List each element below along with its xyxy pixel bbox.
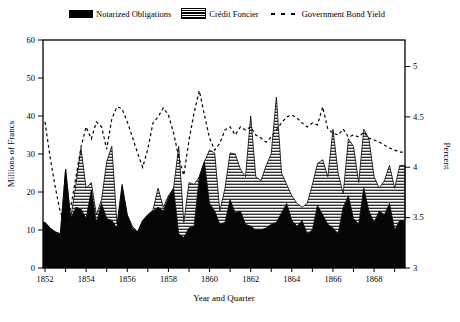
x-axis-title: Year and Quarter (43, 293, 405, 303)
svg-text:1866: 1866 (324, 274, 341, 284)
svg-text:1854: 1854 (78, 274, 96, 284)
svg-text:10: 10 (27, 225, 36, 235)
svg-text:30: 30 (27, 149, 36, 159)
svg-text:40: 40 (27, 111, 36, 121)
figure: Notarized Obligations Crédit Foncier Gov… (0, 0, 460, 322)
svg-text:1862: 1862 (242, 274, 259, 284)
svg-text:4: 4 (413, 162, 418, 172)
svg-text:3: 3 (413, 263, 417, 273)
svg-text:4.5: 4.5 (413, 112, 424, 122)
left-axis-title: Millions of Francs (6, 121, 16, 188)
svg-text:60: 60 (27, 35, 36, 45)
svg-text:3.5: 3.5 (413, 212, 424, 222)
svg-text:5: 5 (413, 61, 417, 71)
svg-text:50: 50 (27, 73, 36, 83)
svg-text:1856: 1856 (119, 274, 136, 284)
svg-text:20: 20 (27, 187, 36, 197)
svg-text:0: 0 (31, 263, 35, 273)
right-axis-title: Percent (442, 143, 452, 170)
plot-area: 010203040506033.544.55185218541856185818… (0, 0, 460, 322)
svg-text:1868: 1868 (366, 274, 383, 284)
svg-text:1858: 1858 (160, 274, 177, 284)
svg-text:1852: 1852 (37, 274, 54, 284)
svg-text:1860: 1860 (201, 274, 218, 284)
svg-text:1864: 1864 (283, 274, 301, 284)
